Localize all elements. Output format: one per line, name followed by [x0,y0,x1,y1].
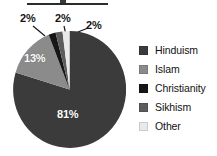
legend-item-islam: Islam [139,60,217,79]
pie-svg [13,31,126,148]
legend-swatch-other [139,122,148,131]
legend-label-islam: Islam [155,64,180,75]
slice-label-islam: 13% [24,52,45,64]
legend-swatch-hinduism [139,46,148,55]
legend-item-other: Other [139,117,217,136]
legend-item-sikhism: Sikhism [139,98,217,117]
callout-label-christianity: 2% [20,12,36,24]
legend-item-christianity: Christianity [139,79,217,98]
legend-swatch-christianity [139,84,148,93]
pie-slices [13,31,126,148]
legend-label-christianity: Christianity [155,83,206,94]
pie-chart-figure: 81% 13% 2% 2% 2% Hinduism Islam Christia… [0,0,217,156]
legend-swatch-sikhism [139,103,148,112]
legend-label-hinduism: Hinduism [155,45,198,56]
pie-graphic [13,31,126,148]
slice-label-hinduism: 81% [57,108,78,120]
legend-swatch-islam [139,65,148,74]
legend-item-hinduism: Hinduism [139,41,217,60]
title-underline-rule [27,3,108,5]
legend-label-sikhism: Sikhism [155,102,191,113]
callout-label-other: 2% [86,19,102,31]
callout-label-sikhism: 2% [55,12,71,24]
legend-label-other: Other [155,121,181,132]
chart-legend: Hinduism Islam Christianity Sikhism Othe… [139,41,217,136]
